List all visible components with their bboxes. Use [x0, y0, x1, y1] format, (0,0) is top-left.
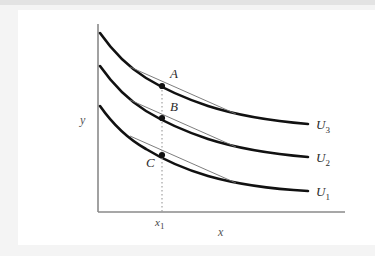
figure-root: A B C U3 U2 U1 y x x1: [0, 0, 375, 256]
curve-label-u2-subscript: 2: [325, 158, 330, 168]
x-tick-label-x1-subscript: 1: [160, 221, 165, 231]
indifference-curve-u1: [100, 106, 308, 191]
curve-label-u1-subscript: 1: [325, 192, 330, 202]
x-tick-label-x1: x1: [154, 216, 164, 231]
plot-panel: A B C U3 U2 U1 y x x1: [18, 10, 375, 245]
indifference-curve-chart: A B C U3 U2 U1 y x x1: [18, 10, 375, 245]
point-b-label: B: [170, 99, 178, 114]
x-axis-label: x: [217, 225, 224, 239]
curve-label-u2: U2: [316, 150, 330, 168]
point-c-dot: [159, 152, 165, 158]
point-a-label: A: [169, 66, 178, 81]
indifference-curve-u3: [100, 33, 308, 124]
top-band: [0, 0, 375, 5]
curve-label-u3-subscript: 3: [325, 125, 330, 135]
point-b-dot: [159, 115, 165, 121]
indifference-curve-u2: [100, 66, 308, 157]
y-axis-label: y: [79, 113, 86, 127]
curve-label-u3: U3: [316, 117, 330, 135]
axes-group: [98, 24, 345, 212]
curves-group: [100, 33, 308, 191]
point-a-dot: [159, 83, 165, 89]
curve-labels-group: U3 U2 U1: [316, 117, 330, 202]
point-c-label: C: [146, 155, 155, 170]
curve-label-u1: U1: [316, 184, 330, 202]
